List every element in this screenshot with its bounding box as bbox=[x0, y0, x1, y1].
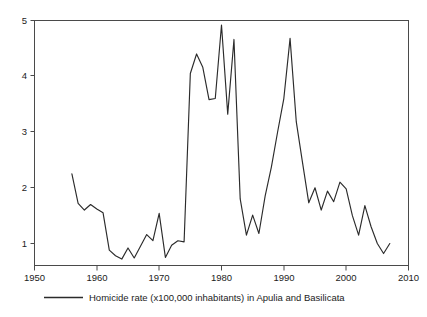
y-tick-label-4: 4 bbox=[22, 70, 27, 81]
x-tick-label-1990: 1990 bbox=[273, 272, 294, 283]
line-chart: 5 4 3 2 1 1950 1960 1970 1980 1990 2000 … bbox=[0, 0, 427, 317]
y-tick-label-5: 5 bbox=[22, 15, 27, 26]
legend-label-homicide-rate: Homicide rate (x100,000 inhabitants) in … bbox=[89, 292, 345, 303]
chart-page: 5 4 3 2 1 1950 1960 1970 1980 1990 2000 … bbox=[0, 0, 427, 317]
x-tick-label-1970: 1970 bbox=[148, 272, 169, 283]
chart-legend: Homicide rate (x100,000 inhabitants) in … bbox=[44, 292, 345, 303]
y-tick-label-1: 1 bbox=[22, 238, 27, 249]
x-tick-label-1960: 1960 bbox=[86, 272, 107, 283]
x-tick-label-2010: 2010 bbox=[398, 272, 419, 283]
x-tick-label-1980: 1980 bbox=[211, 272, 232, 283]
x-tick-label-2000: 2000 bbox=[335, 272, 356, 283]
y-tick-label-2: 2 bbox=[22, 182, 27, 193]
x-tick-label-1950: 1950 bbox=[24, 272, 45, 283]
chart-background bbox=[0, 0, 427, 317]
y-tick-label-3: 3 bbox=[22, 126, 27, 137]
